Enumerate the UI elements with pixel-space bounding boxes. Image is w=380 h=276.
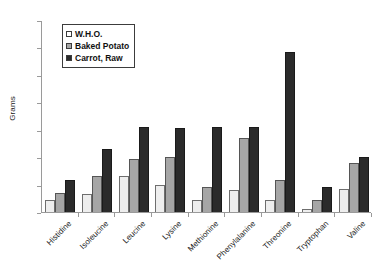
x-tick-mark <box>224 213 225 217</box>
bar[interactable] <box>92 176 102 212</box>
x-tick-mark <box>78 213 79 217</box>
bar[interactable] <box>349 163 359 212</box>
x-tick-mark <box>151 213 152 217</box>
bar[interactable] <box>55 193 65 212</box>
bar-group <box>299 21 336 212</box>
bar-group <box>262 21 299 212</box>
bar[interactable] <box>265 200 275 212</box>
bar[interactable] <box>285 52 295 212</box>
bar[interactable] <box>155 185 165 212</box>
legend-label-who: W.H.O. <box>75 30 102 39</box>
bar[interactable] <box>229 190 239 212</box>
y-tick-mark <box>37 158 41 159</box>
x-tick-mark <box>188 213 189 217</box>
x-tick-mark <box>298 213 299 217</box>
bar[interactable] <box>102 149 112 212</box>
legend-swatch-icon-who <box>66 31 72 37</box>
x-tick-mark <box>261 213 262 217</box>
y-tick-mark <box>37 103 41 104</box>
bar[interactable] <box>192 200 202 212</box>
legend-label-baked-potato: Baked Potato <box>75 42 129 51</box>
bar-group <box>225 21 262 212</box>
bar[interactable] <box>322 187 332 212</box>
legend-item-1[interactable]: Baked Potato <box>66 40 129 52</box>
bar[interactable] <box>82 194 92 212</box>
bar[interactable] <box>239 138 249 212</box>
y-axis-title: Grams <box>8 79 17 139</box>
bar[interactable] <box>165 157 175 212</box>
bar[interactable] <box>302 209 312 212</box>
bar[interactable] <box>249 127 259 212</box>
bar[interactable] <box>175 128 185 212</box>
y-tick-mark <box>37 186 41 187</box>
y-tick-mark <box>37 131 41 132</box>
bar[interactable] <box>202 187 212 212</box>
bar-chart: Grams 02468101214 HistidineIsoleucineLeu… <box>0 0 380 276</box>
bar[interactable] <box>312 200 322 212</box>
legend-item-2[interactable]: Carrot, Raw <box>66 52 129 64</box>
bar-group <box>152 21 189 212</box>
y-tick-mark <box>37 76 41 77</box>
bar[interactable] <box>275 180 285 212</box>
bar[interactable] <box>339 189 349 212</box>
bar[interactable] <box>359 157 369 212</box>
legend-swatch-icon-baked-potato <box>66 43 72 49</box>
x-tick-mark <box>114 213 115 217</box>
bar[interactable] <box>119 176 129 212</box>
bar[interactable] <box>45 200 55 212</box>
bar[interactable] <box>65 180 75 212</box>
y-tick-mark <box>37 213 41 214</box>
y-tick-mark <box>37 21 41 22</box>
legend-label-carrot-raw: Carrot, Raw <box>75 54 123 63</box>
bar[interactable] <box>212 127 222 212</box>
chart-legend: W.H.O. Baked Potato Carrot, Raw <box>62 24 135 68</box>
legend-item-0[interactable]: W.H.O. <box>66 28 129 40</box>
x-tick-mark <box>371 213 372 217</box>
bar[interactable] <box>129 159 139 212</box>
bar[interactable] <box>139 127 149 212</box>
bar-group <box>189 21 226 212</box>
legend-swatch-icon-carrot-raw <box>66 55 72 61</box>
x-tick-mark <box>334 213 335 217</box>
bar-group <box>335 21 372 212</box>
y-tick-mark <box>37 48 41 49</box>
